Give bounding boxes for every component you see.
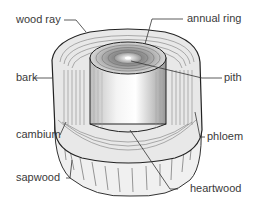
label-pith: pith — [224, 72, 242, 83]
label-phloem: phloem — [207, 131, 243, 142]
label-sapwood: sapwood — [16, 172, 60, 183]
heartwood-cylinder — [90, 42, 166, 132]
label-wood-ray: wood ray — [16, 14, 61, 25]
pith-center — [125, 57, 131, 60]
label-bark: bark — [16, 72, 37, 83]
label-annual-ring: annual ring — [187, 13, 241, 24]
label-cambium: cambium — [16, 129, 61, 140]
label-heartwood: heartwood — [190, 183, 241, 194]
